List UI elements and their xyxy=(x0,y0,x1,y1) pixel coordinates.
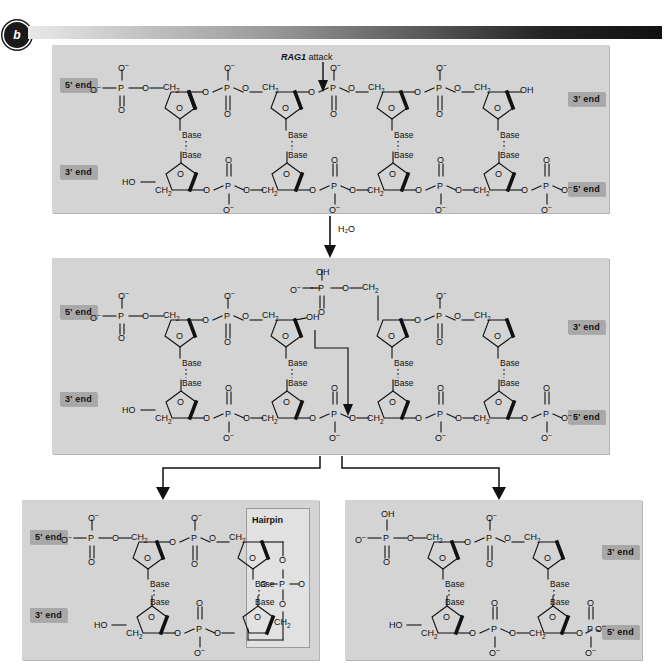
atom-o-minus: O– xyxy=(435,432,446,443)
atom-o: O xyxy=(174,629,181,638)
atom-o-minus: O– xyxy=(561,412,572,423)
atom-o: O xyxy=(436,338,443,347)
atom-o: O xyxy=(88,558,95,567)
atom-o: O xyxy=(203,186,210,195)
atom-o-minus: O– xyxy=(436,290,447,301)
atom-o-minus: O– xyxy=(194,647,205,658)
atom-ch2: CH2 xyxy=(274,618,291,629)
three-prime-end-tag: 3' end xyxy=(568,92,605,106)
atom-o-minus: O– xyxy=(595,623,606,634)
atom-ho: HO xyxy=(389,621,403,630)
atom-p: P xyxy=(486,534,492,543)
atom-p: P xyxy=(543,182,549,191)
atom-o: O xyxy=(331,156,338,165)
three-prime-end-tag: 3' end xyxy=(60,392,97,406)
atom-o: O xyxy=(415,186,422,195)
atom-o: O xyxy=(169,538,176,547)
atom-o: O xyxy=(142,312,149,321)
atom-o-minus: O– xyxy=(489,647,500,658)
atom-o: O xyxy=(454,84,461,93)
atom-o: O xyxy=(242,84,249,93)
atom-ch2: CH2 xyxy=(474,311,491,322)
atom-o: O xyxy=(349,186,356,195)
atom-o: O xyxy=(225,384,232,393)
atom-o: O xyxy=(225,156,232,165)
atom-o-minus: O– xyxy=(90,84,101,95)
atom-o: O xyxy=(308,88,315,97)
three-prime-end-tag: 3' end xyxy=(602,545,639,559)
base-label: Base xyxy=(445,580,464,589)
atom-ch2: CH2 xyxy=(163,83,180,94)
atom-oh: OH xyxy=(520,86,534,95)
base-label: Base xyxy=(500,359,519,368)
base-label: Base xyxy=(288,379,307,388)
atom-o: O xyxy=(298,580,305,589)
atom-o: O xyxy=(543,156,550,165)
atom-o-ring: O xyxy=(254,613,261,622)
base-label: Base xyxy=(182,131,201,140)
atom-o-ring: O xyxy=(389,170,396,179)
atom-oh: OH xyxy=(316,268,330,277)
atom-p: P xyxy=(436,312,442,321)
atom-oh: OH xyxy=(306,313,320,322)
atom-ch2: CH2 xyxy=(362,283,379,294)
atom-o-ring: O xyxy=(495,398,502,407)
atom-o-ring: O xyxy=(443,613,450,622)
atom-p: P xyxy=(383,534,389,543)
base-label: Base xyxy=(500,151,519,160)
atom-o: O xyxy=(521,186,528,195)
atom-o: O xyxy=(331,384,338,393)
atom-o: O xyxy=(455,414,462,423)
atom-p: P xyxy=(225,410,231,419)
atom-ch2: CH2 xyxy=(426,533,443,544)
atom-o-minus: O– xyxy=(435,204,446,215)
atom-o: O xyxy=(214,629,221,638)
atom-o: O xyxy=(243,186,250,195)
atom-ch2: CH2 xyxy=(529,629,546,640)
atom-o-ring: O xyxy=(549,613,556,622)
atom-o: O xyxy=(243,414,250,423)
atom-o-ring: O xyxy=(439,554,446,563)
atom-o: O xyxy=(279,556,286,565)
atom-o-minus: O– xyxy=(223,432,234,443)
atom-ch2: CH2 xyxy=(131,533,148,544)
atom-o: O xyxy=(437,384,444,393)
atom-o: O xyxy=(504,534,511,543)
base-label: Base xyxy=(150,598,169,607)
atom-p: P xyxy=(318,284,324,293)
atom-p: P xyxy=(118,312,124,321)
atom-o-minus: O– xyxy=(541,204,552,215)
atom-o: O xyxy=(202,88,209,97)
base-label: Base xyxy=(288,151,307,160)
atom-o: O xyxy=(415,414,422,423)
base-label: Base xyxy=(182,379,201,388)
atom-o: O xyxy=(407,534,414,543)
atom-o: O xyxy=(509,629,516,638)
atom-p: P xyxy=(331,410,337,419)
atom-ch2: CH2 xyxy=(524,533,541,544)
atom-p: P xyxy=(543,410,549,419)
three-prime-end-tag: 3' end xyxy=(60,165,97,179)
atom-o-minus: O– xyxy=(585,647,596,658)
atom-o-minus: O– xyxy=(329,204,340,215)
atom-ch2: CH2 xyxy=(261,414,278,425)
base-label: Base xyxy=(150,580,169,589)
atom-o-minus: O– xyxy=(290,284,301,295)
atom-o: O xyxy=(191,560,198,569)
atom-ch2: CH2 xyxy=(474,83,491,94)
atom-ch2: CH2 xyxy=(367,186,384,197)
atom-o-minus: O– xyxy=(355,534,366,545)
atom-o: O xyxy=(203,414,210,423)
panel-nicked-dna-intermediate xyxy=(52,258,609,454)
base-label: Base xyxy=(394,379,413,388)
atom-o-ring: O xyxy=(176,104,183,113)
three-prime-end-tag: 3' end xyxy=(30,608,67,622)
five-prime-end-tag: 5' end xyxy=(602,625,639,639)
base-label: Base xyxy=(500,379,519,388)
atom-o: O xyxy=(242,312,249,321)
atom-ho: HO xyxy=(122,178,136,187)
atom-o-minus: O– xyxy=(223,204,234,215)
atom-o: O xyxy=(209,534,216,543)
atom-o: O xyxy=(486,560,493,569)
atom-o-ring: O xyxy=(283,398,290,407)
